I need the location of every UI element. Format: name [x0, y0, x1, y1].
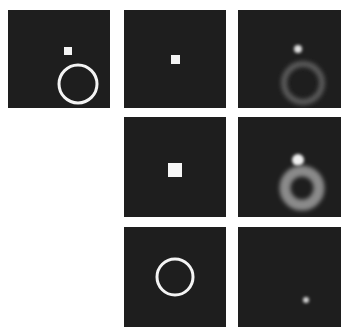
square-marker: [168, 163, 182, 177]
image-panel-r1c1: [8, 10, 110, 108]
image-panel-r3c3: [238, 227, 341, 327]
image-panel-r3c2: [124, 227, 226, 327]
image-panel-r2c2: [124, 117, 226, 217]
ring-marker: [157, 259, 193, 295]
blurred-ring: [284, 64, 322, 102]
square-marker: [171, 55, 180, 64]
bright-spot: [294, 45, 302, 53]
image-panel-r1c3: [238, 10, 341, 108]
square-marker: [64, 47, 72, 55]
blurred-ring: [285, 171, 319, 205]
bright-spot: [303, 297, 309, 303]
image-panel-r2c3: [238, 117, 341, 217]
ring-marker: [59, 65, 97, 103]
image-panel-r1c2: [124, 10, 226, 108]
bright-spot: [292, 154, 304, 166]
